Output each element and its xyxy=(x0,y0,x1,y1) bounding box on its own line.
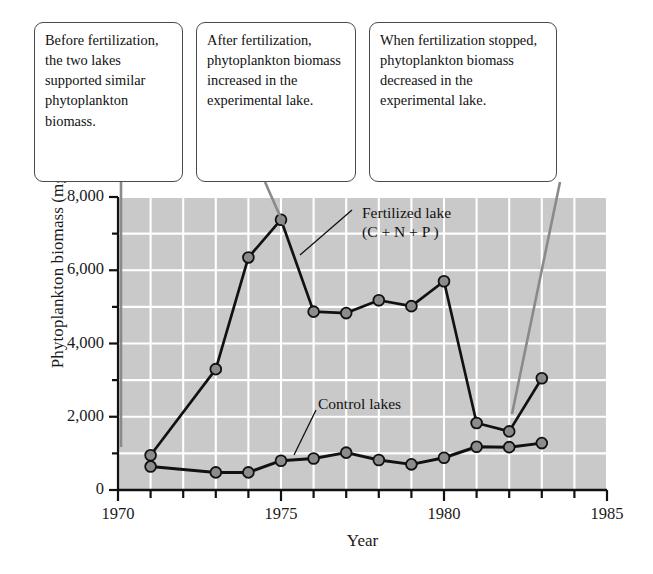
data-point-control-lakes xyxy=(471,441,482,452)
data-point-fertilized-lake xyxy=(406,301,417,312)
data-point-fertilized-lake xyxy=(243,252,254,263)
callout-before-fertilization: Before fertilization, the two lakes supp… xyxy=(34,22,183,182)
data-point-fertilized-lake xyxy=(471,418,482,429)
data-point-control-lakes xyxy=(308,453,319,464)
data-point-fertilized-lake xyxy=(373,295,384,306)
data-point-control-lakes xyxy=(276,455,287,466)
data-point-fertilized-lake xyxy=(210,364,221,375)
data-point-control-lakes xyxy=(341,447,352,458)
data-point-control-lakes xyxy=(406,459,417,470)
data-point-control-lakes xyxy=(373,455,384,466)
data-point-fertilized-lake xyxy=(439,276,450,287)
data-point-fertilized-lake xyxy=(504,426,515,437)
data-point-control-lakes xyxy=(145,461,156,472)
series-label-fertilized-line1: Fertilized lake xyxy=(362,203,451,222)
data-point-control-lakes xyxy=(439,452,450,463)
data-point-control-lakes xyxy=(536,438,547,449)
data-point-fertilized-lake xyxy=(341,308,352,319)
data-point-fertilized-lake xyxy=(536,373,547,384)
series-label-fertilized-lake: Fertilized lake (C + N + P ) xyxy=(362,203,451,242)
series-label-fertilized-line2: (C + N + P ) xyxy=(362,222,451,241)
data-point-fertilized-lake xyxy=(308,306,319,317)
data-point-control-lakes xyxy=(504,442,515,453)
series-label-control-lakes: Control lakes xyxy=(318,394,401,413)
figure-root: Phytoplankton biomass (mg/m3) Year 02,00… xyxy=(0,0,653,574)
callout-fertilization-stopped: When fertilization stopped, phytoplankto… xyxy=(369,22,557,182)
data-point-control-lakes xyxy=(210,467,221,478)
data-point-fertilized-lake xyxy=(276,214,287,225)
data-point-fertilized-lake xyxy=(145,450,156,461)
data-point-control-lakes xyxy=(243,467,254,478)
callout-after-fertilization: After fertilization, phytoplankton bioma… xyxy=(196,22,356,182)
